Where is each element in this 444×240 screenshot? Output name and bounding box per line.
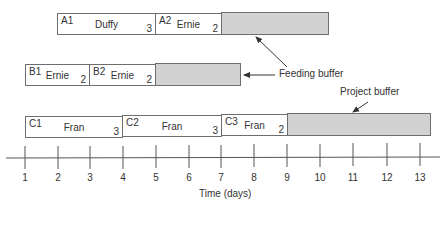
axis-title: Time (days) (199, 188, 251, 199)
tick-label: 12 (377, 172, 397, 183)
tick-label: 10 (310, 172, 330, 183)
tick-label: 7 (211, 172, 231, 183)
tick-label: 2 (48, 172, 68, 183)
feeding-buffer-arrow-diagonal (256, 37, 287, 67)
tick-label: 9 (277, 172, 297, 183)
tick-label: 8 (244, 172, 264, 183)
tick-label: 5 (146, 172, 166, 183)
project-buffer-arrow (353, 102, 368, 112)
tick-label: 13 (410, 172, 430, 183)
tick-label: 1 (15, 172, 35, 183)
tick-label: 6 (179, 172, 199, 183)
tick-label: 4 (113, 172, 133, 183)
tick-label: 3 (80, 172, 100, 183)
tick-label: 11 (343, 172, 363, 183)
time-axis (6, 143, 440, 169)
